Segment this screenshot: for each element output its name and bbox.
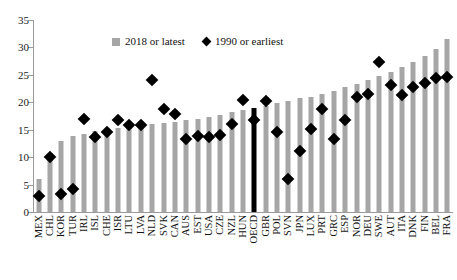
chart-category-group (317, 20, 328, 212)
bar-irl (82, 134, 87, 212)
x-axis-label-nld: NLD (147, 215, 158, 237)
x-axis-label-can: CAN (170, 215, 181, 237)
bar-chl (48, 156, 53, 213)
chart-category-group (237, 20, 248, 212)
bar-esp (343, 87, 348, 212)
plot-area (33, 20, 453, 212)
chart-category-group (260, 20, 271, 212)
diamond-lva (134, 119, 147, 132)
diamond-fra (441, 71, 454, 84)
x-axis-label-irl: IRL (79, 215, 90, 232)
x-axis-label-bel: BEL (431, 215, 442, 235)
x-axis-label-che: CHE (102, 215, 113, 236)
diamond-jpn (293, 145, 306, 158)
diamond-esp (339, 113, 352, 126)
bar-hun (240, 110, 245, 212)
diamond-chl (44, 151, 57, 164)
x-axis-label-ita: ITA (397, 215, 408, 232)
chart-category-group (147, 20, 158, 212)
diamond-svn (282, 173, 295, 186)
y-axis-tick-label: 30 (0, 42, 33, 53)
chart-category-group (419, 20, 430, 212)
x-axis-label-deu: DEU (363, 215, 374, 237)
bar-che (104, 129, 109, 212)
x-axis-label-pol: POL (272, 215, 283, 235)
y-axis-tick-label: 5 (0, 179, 33, 190)
chart-category-group (158, 20, 169, 212)
bar-ltu (127, 126, 132, 212)
diamond-tur (66, 183, 79, 196)
y-axis-tick-label: 25 (0, 69, 33, 80)
x-axis-label-tur: TUR (68, 215, 79, 236)
chart-category-group (294, 20, 305, 212)
chart-category-group (374, 20, 385, 212)
chart-category-group (226, 20, 237, 212)
chart-category-group (385, 20, 396, 212)
diamond-nld (146, 74, 159, 87)
diamond-mex (32, 189, 45, 202)
x-axis-label-nzl: NZL (227, 215, 238, 235)
x-axis-label-swe: SWE (374, 215, 385, 237)
chart-category-group (112, 20, 123, 212)
chart-category-group (135, 20, 146, 212)
bar-lux (309, 97, 314, 212)
chart-category-group (430, 20, 441, 212)
x-axis-label-aut: AUT (386, 215, 397, 237)
bar-swe (377, 76, 382, 212)
x-axis-label-lva: LVA (136, 215, 147, 234)
chart-category-group (192, 20, 203, 212)
diamond-prt (316, 103, 329, 116)
diamond-deu (361, 88, 374, 101)
chart-category-group (339, 20, 350, 212)
diamond-kor (55, 188, 68, 201)
x-axis-label-chl: CHL (45, 215, 56, 236)
chart-category-group (101, 20, 112, 212)
x-axis-label-hun: HUN (238, 215, 249, 238)
bar-lva (138, 125, 143, 212)
y-axis-tick-label: 10 (0, 152, 33, 163)
diamond-can (169, 107, 182, 120)
x-axis-label-jpn: JPN (295, 215, 306, 233)
x-axis-label-grc: GRC (329, 215, 340, 237)
x-axis-label-fra: FRA (442, 215, 453, 235)
x-axis-label-oecd: OECD (249, 215, 260, 244)
bar-gbr (263, 106, 268, 212)
chart-category-group (56, 20, 67, 212)
chart-category-group (169, 20, 180, 212)
bar-svk (161, 123, 166, 212)
y-axis-tick-label: 35 (0, 15, 33, 26)
chart-category-group (271, 20, 282, 212)
diamond-isl (89, 131, 102, 144)
chart-category-group (408, 20, 419, 212)
x-axis-label-prt: PRT (317, 215, 328, 234)
bar-isr (116, 128, 121, 212)
x-axis-label-dnk: DNK (408, 215, 419, 238)
diamond-usa (203, 131, 216, 144)
diamond-ita (396, 88, 409, 101)
y-axis-tick-label: 0 (0, 207, 33, 218)
diamond-hun (237, 93, 250, 106)
diamond-swe (373, 55, 386, 68)
chart-category-group (44, 20, 55, 212)
chart-category-group (181, 20, 192, 212)
chart-category-group (215, 20, 226, 212)
chart-category-group (78, 20, 89, 212)
diamond-che (100, 126, 113, 139)
chart-category-group (90, 20, 101, 212)
diamond-grc (327, 132, 340, 145)
x-axis-label-ltu: LTU (124, 215, 135, 234)
chart-category-group (124, 20, 135, 212)
diamond-bel (430, 72, 443, 85)
chart-category-group (362, 20, 373, 212)
x-axis-label-gbr: GBR (261, 215, 272, 237)
bar-nld (150, 124, 155, 212)
diamond-nor (350, 90, 363, 103)
x-axis-label-usa: USA (204, 215, 215, 236)
x-axis-label-kor: KOR (56, 215, 67, 237)
chart-category-group (249, 20, 260, 212)
diamond-cze (214, 128, 227, 141)
x-axis-label-svk: SVK (159, 215, 170, 236)
bar-grc (331, 91, 336, 212)
x-axis-label-esp: ESP (340, 215, 351, 233)
bar-can (172, 122, 177, 212)
